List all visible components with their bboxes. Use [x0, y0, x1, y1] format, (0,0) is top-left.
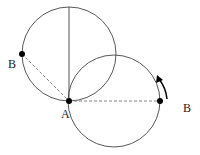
label-b-left: B — [8, 57, 16, 71]
point-b-left — [19, 51, 25, 57]
rotation-arrow-icon — [159, 79, 167, 99]
label-a: A — [61, 107, 70, 121]
point-a — [66, 98, 72, 104]
diagram: A B B — [0, 0, 200, 155]
point-b-right — [157, 98, 163, 104]
dashed-line-left — [22, 54, 69, 101]
arrowhead-icon — [156, 75, 163, 83]
label-b-right: B — [183, 101, 191, 115]
